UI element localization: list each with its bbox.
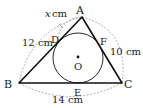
label-ab-length: 12 cm	[22, 37, 54, 48]
center-point-o	[77, 56, 80, 59]
label-a: A	[75, 4, 85, 17]
label-ac-length: 10 cm	[110, 46, 142, 57]
label-x-var: x	[45, 8, 51, 19]
label-c: C	[124, 78, 132, 91]
label-x-unit: cm	[52, 8, 68, 19]
label-bc-length: 14 cm	[52, 94, 84, 105]
label-b: B	[4, 78, 12, 91]
label-f: F	[100, 36, 107, 47]
triangle-incircle-diagram: A B C D E F O x cm 12 cm 10 cm 14 cm	[0, 0, 143, 108]
triangle-abc	[19, 17, 122, 83]
label-o: O	[74, 61, 82, 72]
